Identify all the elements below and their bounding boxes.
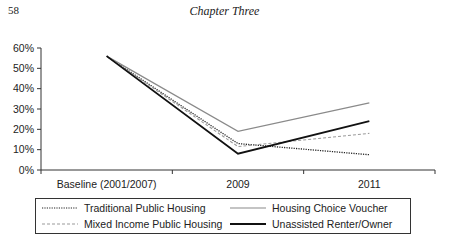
x-tick-label: 2009 — [226, 178, 250, 190]
series-line — [107, 56, 370, 155]
x-tick-label: Baseline (2001/2007) — [57, 178, 157, 190]
gray-solid-line-icon — [230, 205, 266, 211]
y-tick-label: 60% — [13, 42, 34, 54]
legend-item-housing-choice-voucher: Housing Choice Voucher — [230, 202, 388, 214]
y-tick-label: 10% — [13, 143, 34, 155]
legend-label: Unassisted Renter/Owner — [272, 218, 392, 230]
x-tick-label: 2011 — [358, 178, 381, 190]
legend-item-traditional-public-housing: Traditional Public Housing — [42, 202, 206, 214]
x-ticks: Baseline (2001/2007)20092011 — [41, 170, 435, 190]
y-ticks: 0%10%20%30%40%50%60% — [13, 42, 41, 176]
y-tick-label: 40% — [13, 82, 34, 94]
y-tick-label: 20% — [13, 123, 34, 135]
dashed-line-icon — [42, 221, 78, 227]
legend-label: Housing Choice Voucher — [272, 202, 388, 214]
legend-item-mixed-income-public-housing: Mixed Income Public Housing — [42, 218, 222, 230]
series-line — [107, 56, 370, 146]
series-lines — [107, 56, 370, 155]
y-tick-label: 50% — [13, 62, 34, 74]
series-line — [107, 56, 370, 131]
series-line — [107, 56, 370, 154]
line-chart: 0%10%20%30%40%50%60% Baseline (2001/2007… — [0, 0, 449, 198]
dotted-line-icon — [42, 205, 78, 211]
y-tick-label: 0% — [19, 164, 34, 176]
legend: Traditional Public Housing Housing Choic… — [35, 198, 411, 234]
y-tick-label: 30% — [13, 103, 34, 115]
legend-item-unassisted-renter-owner: Unassisted Renter/Owner — [230, 218, 392, 230]
legend-label: Mixed Income Public Housing — [84, 218, 222, 230]
black-solid-line-icon — [230, 221, 266, 227]
legend-label: Traditional Public Housing — [84, 202, 206, 214]
